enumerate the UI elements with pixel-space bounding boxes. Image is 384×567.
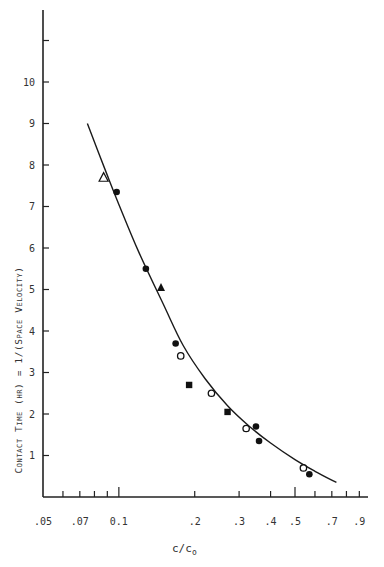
open-circle-marker: [243, 425, 249, 431]
y-tick-label: 7: [29, 201, 35, 212]
open-circle-marker: [300, 465, 306, 471]
y-tick-label: 9: [29, 118, 35, 129]
open-circle-marker: [208, 390, 214, 396]
x-axis-ticks: .05.070.1.2.3.4.5.7.9: [34, 487, 365, 527]
x-tick-label: .05: [34, 516, 52, 527]
open-circle-marker: [178, 353, 184, 359]
x-axis-label: c/co: [172, 542, 197, 557]
y-tick-label: 4: [29, 326, 35, 337]
x-tick-label: 0.1: [110, 516, 128, 527]
x-tick-label: .9: [353, 516, 365, 527]
fit-curve: [87, 124, 336, 483]
x-tick-label: .4: [265, 516, 277, 527]
y-tick-label: 1: [29, 450, 35, 461]
filled-circle-marker: [256, 438, 263, 445]
y-tick-label: 3: [29, 367, 35, 378]
filled-circle-marker: [143, 265, 150, 272]
filled-circle-marker: [172, 340, 179, 347]
x-tick-label: .5: [289, 516, 301, 527]
x-tick-label: .3: [233, 516, 245, 527]
filled-square-marker: [224, 409, 230, 415]
x-tick-label: .07: [71, 516, 89, 527]
y-tick-label: 10: [23, 77, 35, 88]
filled-square-marker: [186, 382, 192, 388]
y-tick-label: 6: [29, 243, 35, 254]
axes: [43, 10, 368, 497]
data-points: [99, 173, 313, 478]
y-axis-ticks: 12345678910: [23, 41, 49, 462]
y-tick-label: 8: [29, 160, 35, 171]
x-tick-label: .7: [326, 516, 338, 527]
filled-triangle-marker: [157, 283, 165, 291]
y-tick-label: 2: [29, 409, 35, 420]
filled-circle-marker: [306, 471, 313, 478]
chart-svg: .05.070.1.2.3.4.5.7.9 12345678910: [0, 0, 384, 567]
y-tick-label: 5: [29, 284, 35, 295]
filled-circle-marker: [113, 189, 120, 196]
filled-circle-marker: [253, 423, 260, 430]
x-tick-label: .2: [189, 516, 201, 527]
